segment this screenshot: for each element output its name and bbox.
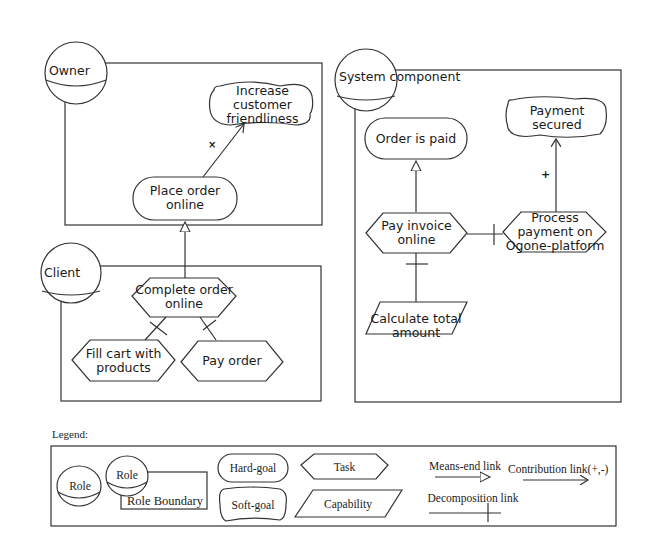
label-line: Ogone-platform [500, 239, 610, 253]
label-line: online [133, 198, 237, 212]
label-line: products [72, 361, 175, 375]
decomposition-link-pay-invoice-to-calculate-total[interactable] [406, 253, 428, 302]
legend-role-boundary-role-label: Role [107, 468, 147, 482]
role-label-client: Client [44, 266, 80, 280]
legend-role-boundary-label: Role Boundary [124, 494, 206, 508]
label-line: amount [364, 326, 468, 340]
label-line: friendliness [215, 112, 310, 126]
legend-capability-label: Capability [300, 497, 396, 511]
label-payment-secured: Payment secured [508, 104, 606, 132]
legend-task-label: Task [301, 460, 388, 474]
legend-decomposition-label: Decomposition link [418, 491, 528, 505]
label-complete-order-online: Complete order online [132, 283, 236, 311]
label-line: online [132, 297, 236, 311]
label-pay-order: Pay order [181, 354, 283, 368]
label-line: payment on [500, 225, 610, 239]
label-line: Pay order [181, 354, 283, 368]
label-line: Order is paid [365, 132, 467, 146]
legend-contribution-label: Contribution link(+,-) [508, 462, 608, 476]
legend-title: Legend: [52, 428, 88, 440]
contribution-sign-help: + [541, 168, 550, 182]
label-line: Increase [215, 84, 310, 98]
label-place-order-online: Place order online [133, 184, 237, 212]
label-line: Payment [508, 104, 606, 118]
label-line: Calculate total [364, 312, 468, 326]
label-order-is-paid: Order is paid [365, 132, 467, 146]
label-line: customer [215, 98, 310, 112]
label-line: Process [500, 211, 610, 225]
label-calculate-total-amount: Calculate total amount [364, 312, 468, 340]
label-line: Complete order [132, 283, 236, 297]
label-fill-cart-with-products: Fill cart with products [72, 347, 175, 375]
legend-soft-goal-label: Soft-goal [220, 498, 286, 512]
label-line: Fill cart with [72, 347, 175, 361]
legend-hard-goal-label: Hard-goal [218, 461, 288, 475]
label-line: secured [508, 118, 606, 132]
contribution-sign-break: × [208, 138, 216, 152]
role-label-system-component: System component [339, 70, 460, 84]
legend-means-end-label: Means-end link [420, 459, 510, 473]
label-line: online [366, 233, 467, 247]
label-pay-invoice-online: Pay invoice online [366, 219, 467, 247]
label-process-payment-on-ogone: Process payment on Ogone-platform [500, 211, 610, 253]
legend-decomposition-link-icon [429, 503, 501, 522]
label-line: Pay invoice [366, 219, 467, 233]
decomposition-link-pay-invoice-to-process-payment[interactable] [467, 224, 503, 245]
label-increase-customer-friendliness: Increase customer friendliness [215, 84, 310, 126]
role-label-owner: Owner [49, 64, 90, 78]
legend-role-label: Role [60, 479, 100, 493]
decomposition-link-complete-to-pay-order[interactable] [200, 317, 216, 340]
label-line: Place order [133, 184, 237, 198]
decomposition-link-complete-to-fill-cart[interactable] [145, 317, 167, 340]
